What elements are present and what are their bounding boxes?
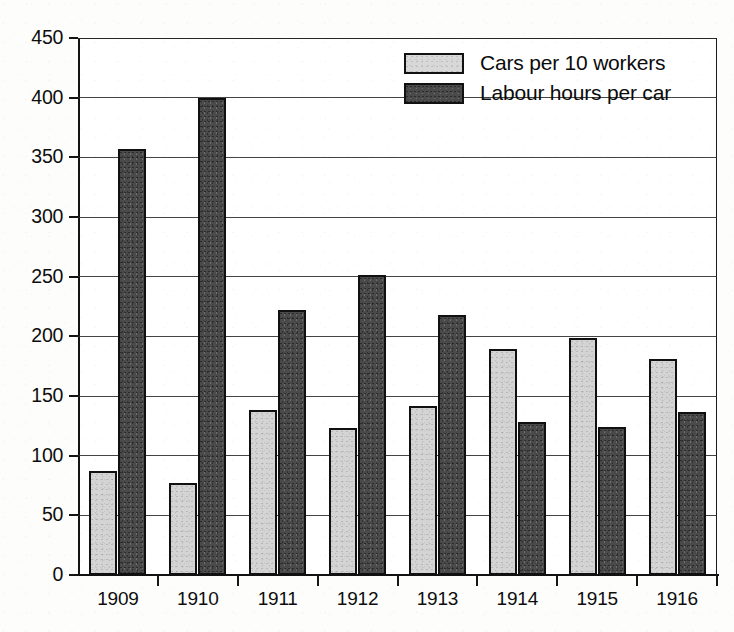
x-tick-mark-5 xyxy=(476,575,478,586)
x-tick-mark-3 xyxy=(317,575,319,586)
bar-1910-series-2 xyxy=(198,98,226,575)
x-axis-label-1914: 1914 xyxy=(477,588,557,610)
y-tick-label-250: 250 xyxy=(8,265,63,288)
x-tick-mark-end xyxy=(716,575,718,586)
gridline-150 xyxy=(78,396,717,397)
y-tick-label-300: 300 xyxy=(8,205,63,228)
x-axis-label-1913: 1913 xyxy=(398,588,478,610)
bar-1914-series-1 xyxy=(489,349,517,575)
gridline-350 xyxy=(78,157,717,158)
bar-1913-series-1 xyxy=(409,406,437,575)
bar-1911-series-1 xyxy=(249,410,277,575)
legend-label-labour-hours-per-car: Labour hours per car xyxy=(480,81,671,105)
bar-1909-series-2 xyxy=(118,149,146,575)
x-axis-label-1912: 1912 xyxy=(318,588,398,610)
y-tick-mark-200 xyxy=(69,335,78,337)
legend-label-cars-per-10-workers: Cars per 10 workers xyxy=(480,51,665,75)
bar-chart: 050100150200250300350400450 190919101911… xyxy=(0,0,734,632)
bar-1916-series-2 xyxy=(678,412,706,575)
x-axis-label-1910: 1910 xyxy=(158,588,238,610)
bar-1914-series-2 xyxy=(518,422,546,575)
x-axis-label-1909: 1909 xyxy=(78,588,158,610)
y-tick-label-350: 350 xyxy=(8,145,63,168)
bar-1915-series-2 xyxy=(598,427,626,575)
y-tick-label-50: 50 xyxy=(8,503,63,526)
bar-1915-series-1 xyxy=(569,338,597,575)
x-axis-label-1916: 1916 xyxy=(637,588,717,610)
bar-1912-series-1 xyxy=(329,428,357,575)
y-tick-label-0: 0 xyxy=(8,563,63,586)
x-axis-label-1915: 1915 xyxy=(557,588,637,610)
bar-1916-series-1 xyxy=(649,359,677,575)
x-tick-mark-7 xyxy=(636,575,638,586)
y-tick-mark-250 xyxy=(69,276,78,278)
bar-1909-series-1 xyxy=(89,471,117,575)
y-tick-label-100: 100 xyxy=(8,444,63,467)
x-tick-mark-6 xyxy=(556,575,558,586)
y-tick-mark-400 xyxy=(69,97,78,99)
x-tick-mark-1 xyxy=(157,575,159,586)
y-tick-label-450: 450 xyxy=(8,26,63,49)
y-tick-label-400: 400 xyxy=(8,86,63,109)
gridline-300 xyxy=(78,217,717,218)
y-tick-mark-0 xyxy=(69,574,78,576)
legend-item-cars-per-10-workers: Cars per 10 workers xyxy=(404,48,671,78)
bar-1912-series-2 xyxy=(358,275,386,575)
chart-page: 050100150200250300350400450 190919101911… xyxy=(0,0,734,632)
gridline-250 xyxy=(78,276,717,277)
legend-item-labour-hours-per-car: Labour hours per car xyxy=(404,78,671,108)
legend-swatch-dark-gray-icon xyxy=(404,83,464,104)
gridline-200 xyxy=(78,336,717,337)
y-tick-label-150: 150 xyxy=(8,384,63,407)
bar-1910-series-1 xyxy=(169,483,197,575)
y-tick-mark-150 xyxy=(69,395,78,397)
chart-legend: Cars per 10 workers Labour hours per car xyxy=(404,48,671,108)
y-tick-mark-50 xyxy=(69,514,78,516)
gridline-450 xyxy=(78,38,717,39)
y-tick-mark-450 xyxy=(69,37,78,39)
x-axis-label-1911: 1911 xyxy=(238,588,318,610)
x-tick-mark-4 xyxy=(397,575,399,586)
y-tick-mark-350 xyxy=(69,156,78,158)
y-tick-mark-300 xyxy=(69,216,78,218)
y-tick-label-200: 200 xyxy=(8,324,63,347)
bar-1913-series-2 xyxy=(438,315,466,575)
legend-swatch-light-gray-icon xyxy=(404,53,464,74)
bar-1911-series-2 xyxy=(278,310,306,575)
x-tick-mark-2 xyxy=(237,575,239,586)
y-tick-mark-100 xyxy=(69,455,78,457)
